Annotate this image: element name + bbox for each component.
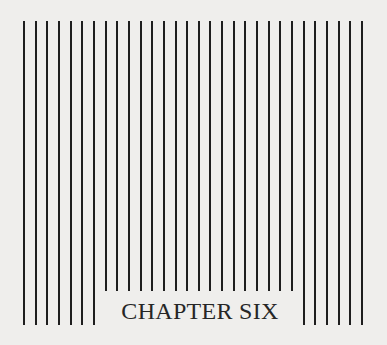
chapter-opening-page: CHAPTER SIX [0, 0, 387, 345]
vertical-rule [35, 21, 37, 325]
vertical-rule [326, 21, 328, 325]
vertical-rule [46, 21, 48, 325]
vertical-rule [291, 21, 293, 291]
vertical-rule [244, 21, 246, 291]
vertical-rule [233, 21, 235, 291]
vertical-rule [349, 21, 351, 325]
vertical-rule [221, 21, 223, 291]
vertical-rule [116, 21, 118, 291]
vertical-rule [81, 21, 83, 325]
vertical-rule [279, 21, 281, 291]
vertical-rule [105, 21, 107, 291]
vertical-rule [151, 21, 153, 291]
vertical-rule [163, 21, 165, 291]
vertical-rule [314, 21, 316, 325]
vertical-rule [175, 21, 177, 291]
vertical-rule [361, 21, 363, 325]
vertical-rule [58, 21, 60, 325]
vertical-rule [256, 21, 258, 291]
vertical-rule [303, 21, 305, 325]
vertical-rule [70, 21, 72, 325]
chapter-heading: CHAPTER SIX [106, 298, 294, 324]
vertical-rule [140, 21, 142, 291]
vertical-rule [128, 21, 130, 291]
vertical-rule [209, 21, 211, 291]
vertical-rule [338, 21, 340, 325]
vertical-rule [93, 21, 95, 325]
vertical-rule [268, 21, 270, 291]
vertical-rule [186, 21, 188, 291]
vertical-rule [198, 21, 200, 291]
vertical-rule [23, 21, 25, 325]
